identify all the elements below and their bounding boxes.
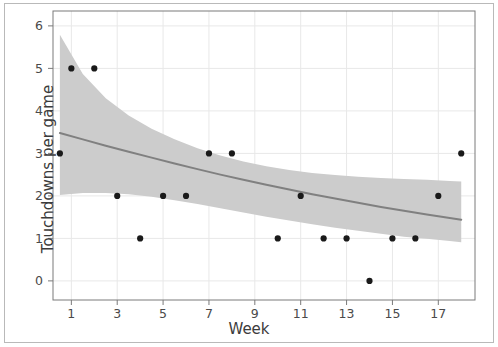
x-tick-label: 9	[251, 306, 259, 321]
data-point	[435, 193, 441, 199]
x-tick-label: 5	[159, 306, 167, 321]
data-point	[160, 193, 166, 199]
data-point	[412, 235, 418, 241]
data-point	[91, 65, 97, 71]
x-tick-label: 17	[430, 306, 446, 321]
data-point	[114, 193, 120, 199]
data-point	[137, 235, 143, 241]
x-tick-label: 3	[113, 306, 121, 321]
data-point	[321, 235, 327, 241]
data-point	[343, 235, 349, 241]
data-point	[68, 65, 74, 71]
data-point	[298, 193, 304, 199]
y-axis-title: Touchdowns per game	[39, 69, 57, 269]
data-point	[366, 278, 372, 284]
data-point	[458, 150, 464, 156]
data-point	[389, 235, 395, 241]
data-point	[57, 150, 63, 156]
x-tick-label: 15	[384, 306, 400, 321]
y-tick-label: 6	[35, 18, 43, 33]
chart-figure: 1357911131517 0123456 Touchdowns per gam…	[0, 0, 498, 347]
x-tick-label: 1	[67, 306, 75, 321]
x-tick-label: 11	[293, 306, 309, 321]
x-tick-label: 13	[339, 306, 355, 321]
data-point	[275, 235, 281, 241]
data-point	[183, 193, 189, 199]
scatter-plot-canvas: 1357911131517 0123456	[0, 0, 498, 347]
data-point	[229, 150, 235, 156]
x-tick-label: 7	[205, 306, 213, 321]
x-axis-title: Week	[0, 320, 498, 338]
y-tick-label: 0	[35, 273, 43, 288]
x-axis-ticks: 1357911131517	[67, 300, 446, 321]
data-point	[206, 150, 212, 156]
